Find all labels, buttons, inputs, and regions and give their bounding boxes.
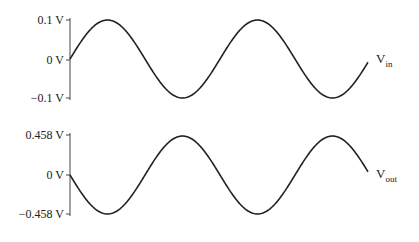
vin-label: Vin [376, 51, 392, 69]
vin-tick-max: 0.1 V [0, 13, 64, 27]
vin-axis [66, 18, 70, 100]
vout-axis [66, 133, 70, 216]
vout-label: Vout [376, 166, 397, 184]
vout-tick-min: −0.458 V [0, 207, 64, 221]
waveform-diagram [0, 0, 419, 242]
vout-tick-zero: 0 V [0, 168, 64, 182]
vout-waveform [70, 136, 368, 214]
vin-waveform [70, 20, 368, 98]
vin-tick-min: −0.1 V [0, 91, 64, 105]
vin-tick-zero: 0 V [0, 53, 64, 67]
vout-tick-max: 0.458 V [0, 128, 64, 142]
